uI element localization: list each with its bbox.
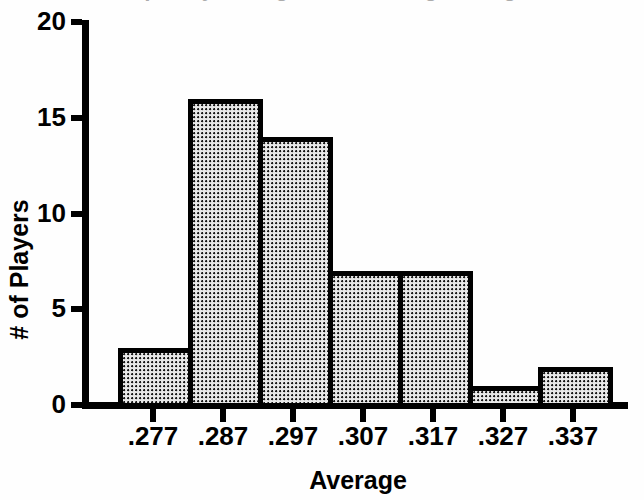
y-axis-tick-label: 5	[6, 295, 66, 321]
x-axis-tick-label: .297	[253, 423, 333, 449]
x-axis-tick-label: .337	[533, 423, 613, 449]
histogram-bar	[188, 99, 263, 408]
x-axis-tick-label: .287	[183, 423, 263, 449]
histogram-bar	[118, 348, 193, 408]
y-axis-tick	[71, 19, 82, 25]
histogram-bar	[468, 386, 543, 408]
x-axis-tick-label: .307	[323, 423, 403, 449]
x-axis-tick-label: .317	[393, 423, 473, 449]
x-axis-tick-label: .327	[463, 423, 543, 449]
y-axis-tick	[71, 211, 82, 217]
y-axis-tick	[71, 402, 82, 408]
y-axis-tick-label: 15	[6, 104, 66, 130]
chart-figure: Frequency Histogram of Batting Averages …	[0, 0, 644, 500]
x-axis-tick-label: .277	[113, 423, 193, 449]
y-axis-tick	[71, 115, 82, 121]
plot-area	[88, 22, 628, 405]
histogram-bar	[398, 271, 473, 408]
y-axis-tick-label: 20	[6, 8, 66, 34]
y-axis-label: # of Players	[5, 150, 34, 390]
chart-title-clipped: Frequency Histogram of Batting Averages	[0, 0, 644, 9]
histogram-bar	[538, 367, 613, 408]
y-axis-tick-label: 10	[6, 200, 66, 226]
histogram-bar	[258, 137, 333, 408]
x-axis-label: Average	[88, 466, 628, 495]
histogram-bar	[328, 271, 403, 408]
y-axis-tick	[71, 306, 82, 312]
y-axis-tick-label: 0	[6, 391, 66, 417]
